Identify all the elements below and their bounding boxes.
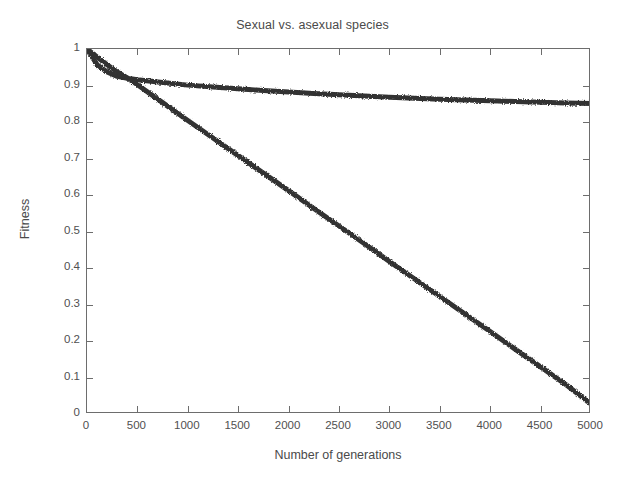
y-tick-mark [87, 268, 93, 269]
y-tick-mark-right [583, 122, 589, 123]
y-tick-label: 0.3 [20, 298, 80, 310]
y-tick-label: 0.8 [20, 115, 80, 127]
y-tick-mark [87, 86, 93, 87]
series-line [87, 49, 590, 103]
y-tick-label: 0.9 [20, 79, 80, 91]
x-tick-label: 5000 [560, 420, 620, 432]
y-tick-label: 0.2 [20, 334, 80, 346]
x-tick-mark-top [389, 49, 390, 55]
x-tick-mark [541, 406, 542, 412]
y-tick-mark [87, 122, 93, 123]
x-tick-mark-top [238, 49, 239, 55]
y-tick-mark-right [583, 159, 589, 160]
y-tick-mark-right [583, 305, 589, 306]
y-tick-mark-right [583, 86, 589, 87]
x-tick-mark [490, 406, 491, 412]
y-tick-mark-right [583, 232, 589, 233]
x-tick-mark-top [440, 49, 441, 55]
x-axis-title: Number of generations [86, 448, 590, 462]
x-tick-mark-top [137, 49, 138, 55]
x-tick-mark-top [188, 49, 189, 55]
y-tick-mark [87, 159, 93, 160]
x-tick-mark-top [490, 49, 491, 55]
x-tick-mark [389, 406, 390, 412]
series-lines [87, 49, 590, 404]
y-tick-mark [87, 195, 93, 196]
y-tick-mark [87, 378, 93, 379]
y-tick-mark-right [583, 195, 589, 196]
x-tick-mark-top [289, 49, 290, 55]
y-tick-mark-right [583, 268, 589, 269]
y-tick-label: 0.1 [20, 371, 80, 383]
plot-area [86, 48, 590, 413]
y-tick-mark-right [583, 378, 589, 379]
x-tick-mark [188, 406, 189, 412]
x-tick-mark [440, 406, 441, 412]
x-tick-mark [137, 406, 138, 412]
x-tick-mark [289, 406, 290, 412]
chart-figure: Sexual vs. asexual species [0, 0, 625, 486]
plot-svg [87, 49, 590, 413]
x-axis-tick-labels: 0500100015002000250030003500400045005000 [86, 420, 590, 440]
x-tick-mark [238, 406, 239, 412]
y-tick-mark [87, 341, 93, 342]
x-tick-mark [339, 406, 340, 412]
y-tick-label: 0 [20, 407, 80, 419]
y-tick-mark [87, 305, 93, 306]
y-tick-mark [87, 232, 93, 233]
chart-title: Sexual vs. asexual species [0, 18, 625, 32]
y-tick-label: 1 [20, 42, 80, 54]
y-axis-title: Fitness [18, 174, 32, 264]
x-tick-mark-top [541, 49, 542, 55]
y-tick-label: 0.7 [20, 152, 80, 164]
y-tick-mark-right [583, 341, 589, 342]
x-tick-mark-top [339, 49, 340, 55]
